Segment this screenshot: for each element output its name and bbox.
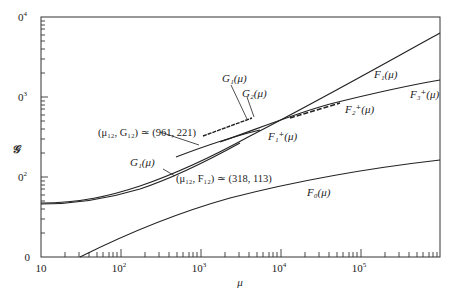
y-tick-10000: 04 — [18, 10, 28, 23]
curves — [41, 33, 440, 257]
x-tick-1000: 103 — [192, 261, 207, 274]
x-ticks — [65, 249, 437, 257]
x-tick-labels: 10 102 103 104 105 — [36, 261, 367, 274]
label-G2: G₂(μ) — [242, 87, 267, 100]
leader-G2 — [247, 97, 254, 117]
y-tick-10: 0 — [25, 251, 31, 263]
annotation-G12: (μ₁₂, G₁₂) ≃ (961, 221) — [98, 127, 196, 139]
x-tick-100: 102 — [112, 261, 127, 274]
x-tick-10: 10 — [36, 262, 48, 274]
label-G1-mid: G₁(μ) — [130, 156, 155, 169]
label-G1-top: G₁(μ) — [222, 72, 247, 85]
label-F0: F₀(μ) — [306, 186, 331, 199]
label-F1plus: F₁⁺(μ) — [267, 130, 298, 143]
label-F2plus: F₂⁺(μ) — [344, 103, 375, 116]
y-tick-labels: 0 02 03 04 — [18, 10, 31, 263]
y-tick-100: 02 — [18, 170, 28, 183]
annotation-F12: (μ₁₂, F₁₂) ≃ (318, 113) — [176, 173, 272, 185]
label-F3plus: F₃⁺(μ) — [409, 88, 440, 101]
y-ticks — [41, 21, 48, 233]
x-tick-10000: 104 — [272, 261, 287, 274]
label-F1: F₁(μ) — [373, 68, 398, 81]
y-axis-label: 𝒢 — [12, 143, 22, 155]
y-tick-1000: 03 — [18, 90, 28, 103]
x-axis-label: μ — [236, 276, 243, 288]
chart: 0 02 03 04 𝒢 10 102 103 104 105 μ — [0, 0, 460, 292]
x-tick-100000: 105 — [352, 261, 367, 274]
